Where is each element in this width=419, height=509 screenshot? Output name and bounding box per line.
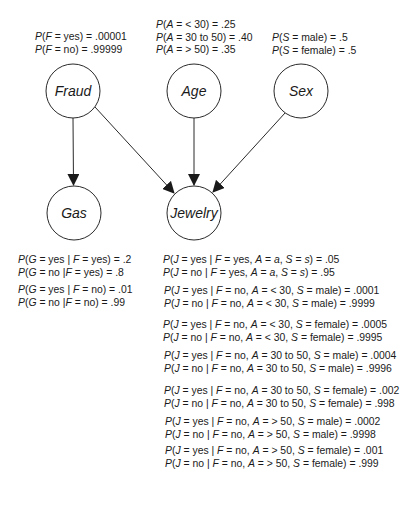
edge-sex-jewelry <box>213 113 285 192</box>
cpt-fraud: P(F = yes) = .00001 P(F = no) = .99999 <box>35 31 127 56</box>
node-sex: Sex <box>274 64 328 118</box>
cpt-jewelry-group-1: P(J = yes | F = yes, A = a, S = s) = .05… <box>163 254 339 279</box>
cpt-line: P(G = no |F = no) = .99 <box>18 297 133 310</box>
cpt-jewelry-group-4: P(J = yes | F = no, A = 30 to 50, S = ma… <box>164 350 396 375</box>
node-label-sex: Sex <box>289 83 314 99</box>
node-age: Age <box>167 64 221 118</box>
cpt-jewelry-group-7: P(J = yes | F = no, A = > 50, S = female… <box>165 445 383 470</box>
cpt-line: P(J = no | F = yes, A = a, S = s) = .95 <box>163 267 339 280</box>
cpt-line: P(J = yes | F = no, A = < 30, S = female… <box>163 319 387 332</box>
edge-fraud-gas <box>73 118 74 185</box>
cpt-line: P(G = yes | F = yes) = .2 <box>18 254 131 267</box>
cpt-gas-group-1: P(G = yes | F = yes) = .2 P(G = no |F = … <box>18 254 131 279</box>
cpt-line: P(J = yes | F = no, A = 30 to 50, S = fe… <box>164 385 399 398</box>
cpt-jewelry-group-2: P(J = yes | F = no, A = < 30, S = male) … <box>164 285 379 310</box>
cpt-line: P(F = no) = .99999 <box>35 44 127 57</box>
cpt-line: P(J = yes | F = yes, A = a, S = s) = .05 <box>163 254 339 267</box>
cpt-jewelry-group-5: P(J = yes | F = no, A = 30 to 50, S = fe… <box>164 385 399 410</box>
cpt-age: P(A = < 30) = .25 P(A = 30 to 50) = .40 … <box>156 19 253 57</box>
node-label-fraud: Fraud <box>55 83 93 99</box>
cpt-line: P(J = no | F = no, A = > 50, S = male) =… <box>165 429 380 442</box>
cpt-line: P(S = male) = .5 <box>272 32 356 45</box>
cpt-line: P(J = yes | F = no, A = > 50, S = female… <box>165 445 383 458</box>
cpt-line: P(A = < 30) = .25 <box>156 19 253 32</box>
cpt-line: P(J = yes | F = no, A = > 50, S = male) … <box>165 416 380 429</box>
node-jewelry: Jewelry <box>167 186 221 240</box>
cpt-jewelry-group-3: P(J = yes | F = no, A = < 30, S = female… <box>163 319 387 344</box>
cpt-line: P(J = yes | F = no, A = 30 to 50, S = ma… <box>164 350 396 363</box>
cpt-line: P(J = no | F = no, A = 30 to 50, S = fem… <box>164 398 399 411</box>
cpt-line: P(J = no | F = no, A = 30 to 50, S = mal… <box>164 363 396 376</box>
cpt-line: P(A = > 50) = .35 <box>156 44 253 57</box>
cpt-line: P(A = 30 to 50) = .40 <box>156 32 253 45</box>
cpt-line: P(G = yes | F = no) = .01 <box>18 284 133 297</box>
cpt-sex: P(S = male) = .5 P(S = female) = .5 <box>272 32 356 57</box>
cpt-line: P(J = no | F = no, A = < 30, S = female)… <box>163 332 387 345</box>
cpt-line: P(J = no | F = no, A = > 50, S = female)… <box>165 458 383 471</box>
cpt-jewelry-group-6: P(J = yes | F = no, A = > 50, S = male) … <box>165 416 380 441</box>
cpt-line: P(S = female) = .5 <box>272 45 356 58</box>
cpt-line: P(F = yes) = .00001 <box>35 31 127 44</box>
cpt-line: P(G = no |F = yes) = .8 <box>18 267 131 280</box>
node-gas: Gas <box>47 186 101 240</box>
cpt-gas-group-2: P(G = yes | F = no) = .01 P(G = no |F = … <box>18 284 133 309</box>
node-label-age: Age <box>181 83 207 99</box>
node-label-jewelry: Jewelry <box>169 205 218 221</box>
node-fraud: Fraud <box>46 64 100 118</box>
cpt-line: P(J = yes | F = no, A = < 30, S = male) … <box>164 285 379 298</box>
edge-fraud-jewelry <box>95 107 174 193</box>
node-label-gas: Gas <box>61 205 87 221</box>
cpt-line: P(J = no | F = no, A = < 30, S = male) =… <box>164 298 379 311</box>
